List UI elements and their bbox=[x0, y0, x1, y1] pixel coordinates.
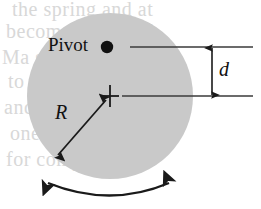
radius-label: R bbox=[55, 101, 67, 124]
pivot-label: Pivot bbox=[48, 34, 88, 56]
swing-direction-arc-arrow bbox=[48, 183, 169, 196]
figure-canvas bbox=[0, 0, 261, 209]
distance-label: d bbox=[219, 58, 229, 81]
pivot-point-dot bbox=[101, 41, 113, 53]
physical-pendulum-figure: the spring and at becomes of which Ma su… bbox=[0, 0, 261, 209]
